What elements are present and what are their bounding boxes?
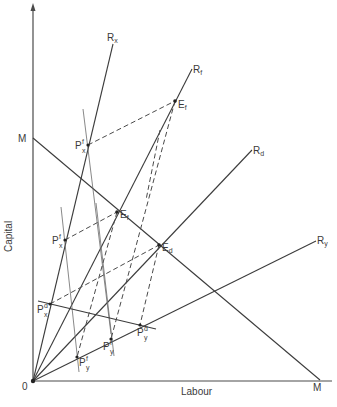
line-through-pxf-mid (61, 207, 79, 372)
ray-rf-label: Rf (193, 64, 202, 76)
point-ef-inner (115, 210, 119, 214)
y-axis-arrow-icon (31, 3, 36, 11)
svg-text:P: P (75, 140, 82, 151)
dash-pxf-ef (88, 101, 175, 145)
axes (31, 3, 333, 381)
svg-text:x: x (44, 311, 48, 318)
m-x-intercept-label: M (313, 382, 321, 393)
dash-ef-inner-pyf (77, 212, 117, 357)
ef-inner-label: Ef (120, 209, 129, 221)
svg-text:P: P (103, 341, 110, 352)
ef-upper-label: Ef (178, 99, 187, 111)
pxf-mid-label: P f x (52, 233, 63, 249)
origin-label: 0 (22, 381, 28, 392)
pyf-label: P f y (79, 355, 90, 372)
pxd-label: P d x (37, 302, 48, 318)
dash-ed-pyd (140, 245, 159, 325)
svg-text:f: f (110, 339, 112, 346)
origin-point (31, 379, 35, 383)
labels: Capital Labour 0 M M Rx Rf Rd Ry Ef Ef E… (3, 32, 328, 397)
pyd-label: P d y (137, 325, 148, 342)
m-y-intercept-label: M (18, 133, 26, 144)
svg-text:y: y (110, 348, 114, 356)
svg-text:x: x (82, 147, 86, 154)
ray-ry-label: Ry (317, 235, 328, 248)
ed-label: Ed (162, 242, 173, 254)
ray-rx (33, 44, 113, 381)
dash-pxf-mid-ef-inner (65, 212, 117, 240)
y-axis-label: Capital (3, 221, 14, 252)
line-through-pyf2 (96, 203, 114, 356)
svg-text:y: y (86, 364, 90, 372)
rays (33, 44, 316, 381)
pxf-upper-label: P f x (75, 138, 86, 154)
point-ed (157, 243, 161, 247)
svg-text:P: P (37, 304, 44, 315)
factor-allocation-diagram: Capital Labour 0 M M Rx Rf Rd Ry Ef Ef E… (0, 0, 337, 407)
point-pxd (48, 302, 51, 305)
ray-rx-label: Rx (107, 32, 118, 44)
point-ef-upper (173, 99, 177, 103)
ray-rd-label: Rd (253, 145, 264, 157)
line-through-pxf-upper (83, 109, 111, 334)
ray-ry (33, 241, 316, 381)
svg-text:y: y (144, 334, 148, 342)
point-pxf-upper (86, 143, 89, 146)
ray-rd (33, 150, 252, 381)
svg-text:P: P (52, 235, 59, 246)
x-axis-label: Labour (181, 386, 213, 397)
point-pxf-mid (63, 238, 66, 241)
svg-text:f: f (82, 138, 84, 145)
svg-text:P: P (79, 357, 86, 368)
dash-ef-pyf2 (111, 101, 175, 339)
svg-text:f: f (86, 355, 88, 362)
svg-text:d: d (44, 302, 48, 309)
line-through-pxd-pyd (38, 301, 156, 329)
svg-text:d: d (144, 325, 148, 332)
svg-text:x: x (59, 242, 63, 249)
svg-text:P: P (137, 327, 144, 338)
svg-text:f: f (59, 233, 61, 240)
